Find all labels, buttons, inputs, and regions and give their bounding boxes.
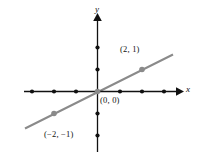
y-tick-dot [95,111,99,115]
x-tick-dot [74,89,78,93]
point-label-neg2-neg1: (−2, −1) [44,130,74,139]
data-point-marker-2-1 [139,67,145,73]
x-tick-dot [118,89,122,93]
data-point-marker-neg2-neg1 [51,111,57,117]
point-label-2-1: (2, 1) [120,45,140,54]
point-label-origin: (0, 0) [100,96,120,105]
x-tick-dot [162,89,166,93]
coordinate-plane-figure: x y (2, 1) (0, 0) (−2, −1) [0,0,198,158]
y-tick-dot [95,133,99,137]
graph-canvas [0,0,198,158]
x-axis-label: x [186,85,190,94]
y-axis-arrow-icon [93,13,102,21]
x-tick-dot [140,89,144,93]
y-tick-dot [95,45,99,49]
x-axis-arrow-icon [176,87,184,96]
data-point-marker-0-0 [95,89,101,95]
x-tick-dot [52,89,56,93]
x-tick-dot [30,89,34,93]
y-tick-dot [95,67,99,71]
y-axis-label: y [95,5,99,14]
